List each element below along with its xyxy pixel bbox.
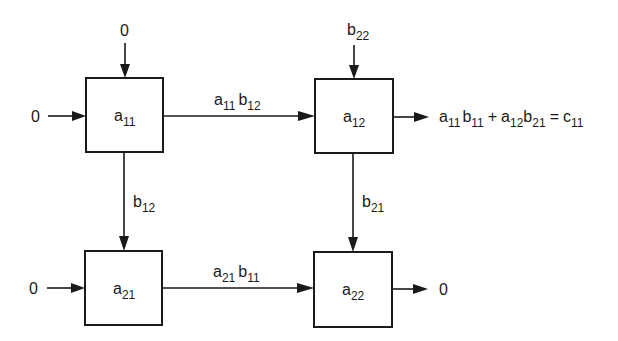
input-a21-left-label: 0 — [29, 280, 38, 297]
edge-a12-a22-label: b21 — [362, 193, 385, 215]
input-a11-top-label: 0 — [120, 22, 129, 39]
arrowhead-right-icon — [72, 111, 86, 121]
arrowhead-right-icon — [414, 112, 429, 122]
systolic-array-diagram: a11 a12 a21 a22 0 0 a11b12 b22 a11b11+a1… — [0, 0, 618, 341]
input-a12-top-label: b22 — [347, 21, 370, 43]
output-a22-label: 0 — [439, 281, 448, 298]
arrowhead-down-icon — [120, 64, 130, 78]
input-a11-left-label: 0 — [31, 108, 40, 125]
arrowhead-right-icon — [413, 284, 428, 294]
arrowhead-right-icon — [297, 283, 314, 293]
output-c11-expression: a11b11+a12b21=c11 — [439, 108, 584, 130]
arrowhead-down-icon — [348, 237, 358, 252]
arrowhead-down-icon — [349, 65, 359, 79]
edge-a11-a12-label: a11b12 — [214, 91, 261, 113]
edge-a11-a21-label: b12 — [133, 193, 156, 215]
arrowhead-right-icon — [71, 283, 85, 293]
arrowhead-down-icon — [119, 236, 129, 251]
edge-a21-a22-label: a21b11 — [213, 263, 260, 285]
arrowhead-right-icon — [298, 111, 315, 121]
